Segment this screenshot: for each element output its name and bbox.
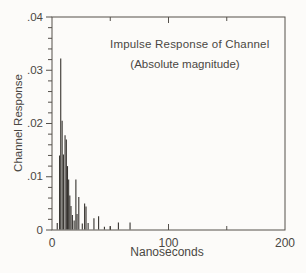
x-tick-label: 0	[49, 236, 56, 250]
y-tick-label: 0	[37, 224, 43, 236]
chart-subtitle: (Absolute magnitude)	[110, 58, 260, 70]
y-tick-label: .03	[27, 64, 43, 76]
y-tick-label: .04	[27, 11, 44, 23]
impulse-response-figure: 0.01.02.03.040100200 Impulse Response of…	[0, 0, 306, 273]
y-tick-label: .01	[27, 170, 43, 182]
y-axis-label: Channel Response	[12, 58, 24, 188]
x-axis-label: Nanoseconds	[102, 245, 232, 259]
y-tick-label: .02	[27, 117, 43, 129]
x-tick-label: 200	[275, 236, 295, 250]
chart-title: Impulse Response of Channel	[110, 38, 260, 50]
